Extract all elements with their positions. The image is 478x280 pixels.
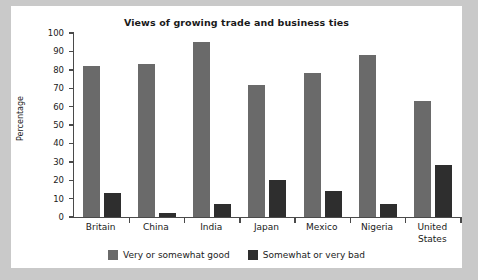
bar-group bbox=[185, 33, 240, 217]
bar-group bbox=[350, 33, 405, 217]
y-axis-tick-label: 40 bbox=[53, 137, 64, 149]
y-axis-tick-label: 70 bbox=[53, 82, 64, 94]
x-axis-label: United States bbox=[405, 222, 460, 245]
bar bbox=[414, 101, 431, 217]
bar bbox=[83, 66, 100, 217]
plot-area: 1009080706050403020100 bbox=[73, 33, 461, 218]
x-axis-label: Britain bbox=[73, 222, 128, 245]
y-axis-tick-label: 0 bbox=[59, 211, 64, 223]
bar bbox=[159, 213, 176, 217]
y-axis-tick-label: 60 bbox=[53, 101, 64, 113]
x-axis-label: Japan bbox=[239, 222, 294, 245]
y-axis-tick-label: 10 bbox=[53, 193, 64, 205]
bar-group bbox=[406, 33, 461, 217]
bar bbox=[248, 85, 265, 217]
legend-swatch bbox=[108, 250, 118, 260]
legend-item: Somewhat or very bad bbox=[248, 250, 365, 260]
bar-group bbox=[74, 33, 129, 217]
bar bbox=[325, 191, 342, 217]
bar-group bbox=[240, 33, 295, 217]
bar bbox=[214, 204, 231, 217]
chart-panel: Views of growing trade and business ties… bbox=[11, 6, 462, 268]
bar-group bbox=[129, 33, 184, 217]
x-axis-labels: BritainChinaIndiaJapanMexicoNigeriaUnite… bbox=[73, 222, 460, 245]
chart-page: Views of growing trade and business ties… bbox=[0, 0, 478, 280]
legend-label: Somewhat or very bad bbox=[263, 250, 365, 260]
y-axis-title: Percentage bbox=[16, 79, 25, 159]
legend-swatch bbox=[248, 250, 258, 260]
y-axis-tick-label: 30 bbox=[53, 156, 64, 168]
bar bbox=[269, 180, 286, 217]
x-axis-label: India bbox=[184, 222, 239, 245]
legend-item: Very or somewhat good bbox=[108, 250, 230, 260]
bar bbox=[193, 42, 210, 217]
bar bbox=[380, 204, 397, 217]
y-axis-tick-label: 100 bbox=[48, 27, 64, 39]
legend-label: Very or somewhat good bbox=[123, 250, 230, 260]
bar-group bbox=[295, 33, 350, 217]
y-axis-tick-label: 80 bbox=[53, 64, 64, 76]
bar-groups bbox=[74, 33, 461, 217]
bar bbox=[359, 55, 376, 217]
chart-legend: Very or somewhat goodSomewhat or very ba… bbox=[11, 250, 462, 260]
bar bbox=[104, 193, 121, 217]
x-axis-label: China bbox=[128, 222, 183, 245]
y-axis-tick-label: 90 bbox=[53, 45, 64, 57]
y-axis-tick-label: 50 bbox=[53, 119, 64, 131]
x-axis-label: Nigeria bbox=[349, 222, 404, 245]
y-axis-tick-label: 20 bbox=[53, 174, 64, 186]
bar bbox=[304, 73, 321, 217]
bar bbox=[138, 64, 155, 217]
chart-title: Views of growing trade and business ties bbox=[11, 17, 462, 28]
x-axis-label: Mexico bbox=[294, 222, 349, 245]
bar bbox=[435, 165, 452, 217]
x-axis-end-tick bbox=[460, 217, 461, 223]
